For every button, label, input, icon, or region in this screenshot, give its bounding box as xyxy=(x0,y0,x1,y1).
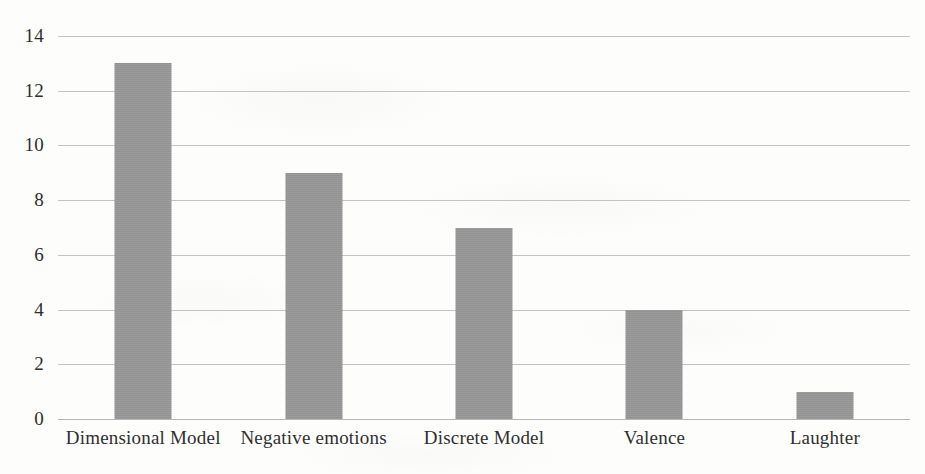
bar-slot xyxy=(569,36,739,419)
bar xyxy=(626,310,683,419)
y-axis-tick-label: 6 xyxy=(34,244,44,266)
y-axis-tick-label: 0 xyxy=(34,408,44,430)
y-axis-tick-label: 4 xyxy=(34,299,44,321)
x-axis-tick-label: Valence xyxy=(569,427,739,449)
bar xyxy=(115,63,172,419)
chart-page: 14121086420 Dimensional ModelNegative em… xyxy=(0,0,925,474)
bar xyxy=(796,392,853,419)
y-axis-tick-label: 8 xyxy=(34,189,44,211)
x-axis-tick-labels: Dimensional ModelNegative emotionsDiscre… xyxy=(58,427,910,449)
bar-series xyxy=(58,36,910,419)
bar-slot xyxy=(399,36,569,419)
bar xyxy=(456,228,513,420)
y-axis-tick-label: 14 xyxy=(24,25,44,47)
bar-slot xyxy=(740,36,910,419)
y-axis-tick-label: 10 xyxy=(24,134,44,156)
bar xyxy=(285,173,342,419)
x-axis-tick-label: Dimensional Model xyxy=(58,427,228,449)
plot-area: 14121086420 xyxy=(58,36,910,419)
x-axis-tick-label: Laughter xyxy=(740,427,910,449)
x-axis-tick-label: Negative emotions xyxy=(228,427,398,449)
bar-slot xyxy=(58,36,228,419)
bar-slot xyxy=(228,36,398,419)
x-axis-tick-label: Discrete Model xyxy=(399,427,569,449)
y-axis-tick-label: 2 xyxy=(34,353,44,375)
y-axis-tick-label: 12 xyxy=(24,80,44,102)
axis-baseline xyxy=(58,419,910,420)
